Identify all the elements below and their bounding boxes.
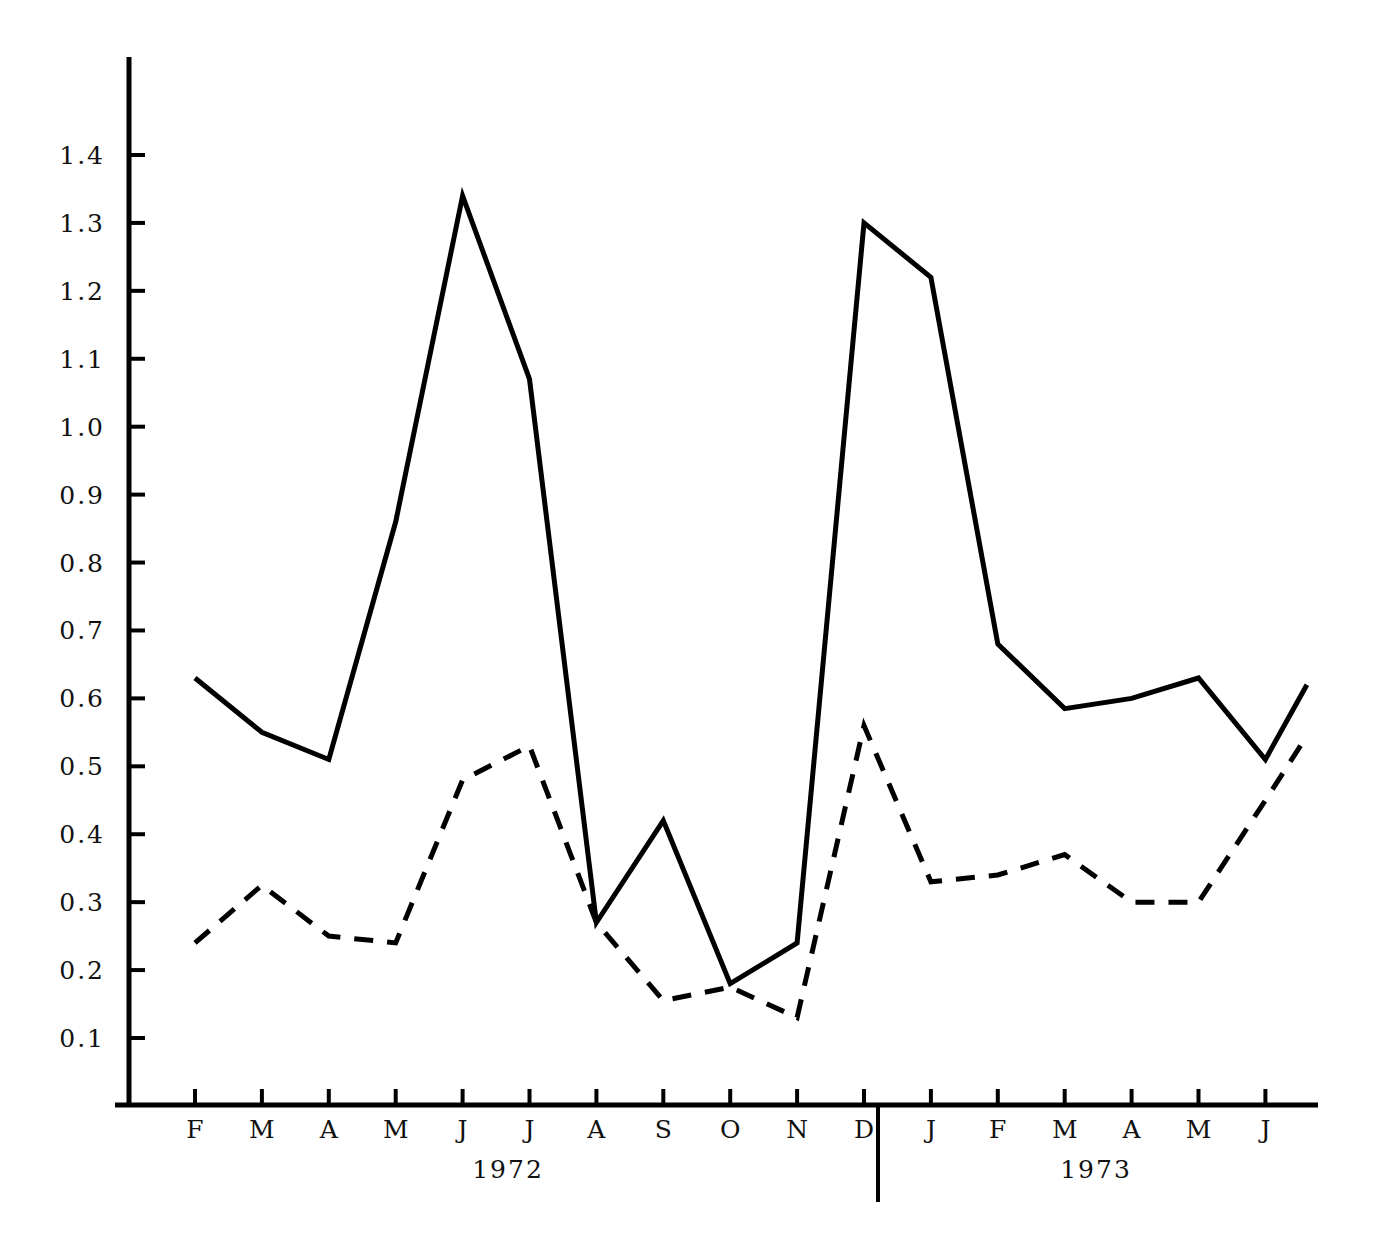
axes [115, 57, 1318, 1202]
year-label-1973: 1973 [1060, 1155, 1132, 1184]
x-tick-label-12: F [989, 1115, 1006, 1144]
y-tick-label-1.2: 1.2 [59, 276, 105, 305]
y-tick-label-0.8: 0.8 [59, 548, 105, 577]
series-solid-line [195, 196, 1307, 984]
y-tick-label-0.9: 0.9 [59, 480, 105, 509]
x-tick-label-0: F [186, 1115, 203, 1144]
chart-page: 1.41.31.21.11.00.90.80.70.60.50.40.30.20… [0, 0, 1391, 1250]
x-tick-label-5: J [524, 1115, 534, 1144]
x-tick-label-14: A [1123, 1115, 1141, 1144]
x-tick-label-11: J [926, 1115, 936, 1144]
x-tick-label-2: A [320, 1115, 338, 1144]
y-tick-label-1.3: 1.3 [59, 208, 105, 237]
x-tick-label-3: M [383, 1115, 409, 1144]
y-tick-label-1.1: 1.1 [59, 344, 105, 373]
x-tick-label-8: O [720, 1115, 741, 1144]
y-tick-label-0.4: 0.4 [59, 820, 105, 849]
x-tick-label-7: S [655, 1115, 672, 1144]
x-tick-label-1: M [249, 1115, 275, 1144]
y-tick-label-0.1: 0.1 [59, 1024, 105, 1053]
line-chart [0, 0, 1391, 1250]
year-label-1972: 1972 [472, 1155, 544, 1184]
x-tick-label-9: N [786, 1115, 808, 1144]
x-tick-label-6: A [587, 1115, 605, 1144]
y-tick-label-0.7: 0.7 [59, 616, 105, 645]
x-tick-label-4: J [458, 1115, 468, 1144]
y-tick-label-0.6: 0.6 [59, 684, 105, 713]
x-tick-label-13: M [1052, 1115, 1078, 1144]
x-tick-label-15: M [1186, 1115, 1212, 1144]
x-tick-label-16: J [1260, 1115, 1270, 1144]
y-tick-label-0.5: 0.5 [59, 752, 105, 781]
y-tick-label-1.0: 1.0 [59, 412, 105, 441]
y-tick-label-0.2: 0.2 [59, 956, 105, 985]
y-tick-label-1.4: 1.4 [59, 141, 105, 170]
y-tick-label-0.3: 0.3 [59, 888, 105, 917]
x-tick-label-10: D [854, 1115, 874, 1144]
